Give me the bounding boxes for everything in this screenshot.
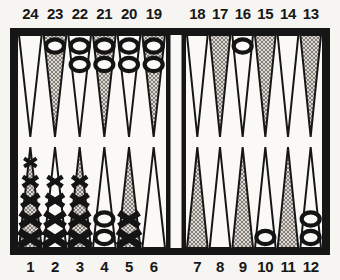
checker-O-point-12 — [302, 231, 320, 244]
checker-O-point-21 — [95, 58, 113, 71]
center-bar — [171, 35, 182, 248]
checker-O-point-20 — [120, 39, 138, 52]
backgammon-diagram: 24 23 22 21 20 19 18 17 16 15 14 13 1 2 … — [0, 0, 340, 280]
checker-O-point-22 — [71, 58, 89, 71]
checker-O-point-4 — [95, 231, 113, 244]
checker-O-point-12 — [302, 212, 320, 225]
checker-O-point-19 — [145, 58, 163, 71]
checker-O-point-21 — [95, 39, 113, 52]
checker-O-point-23 — [46, 39, 64, 52]
board-svg — [0, 0, 340, 280]
checker-O-point-16 — [234, 39, 252, 52]
checker-O-point-20 — [120, 58, 138, 71]
checker-O-point-22 — [71, 39, 89, 52]
checker-O-point-4 — [95, 212, 113, 225]
checker-O-point-10 — [256, 231, 274, 244]
checker-O-point-19 — [145, 39, 163, 52]
